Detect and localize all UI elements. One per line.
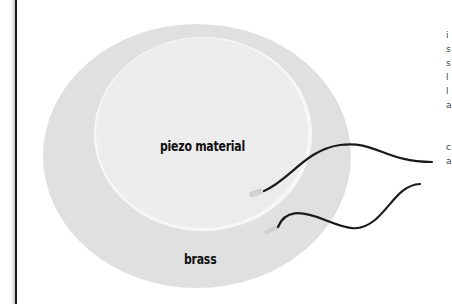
cropped-text-fragment: s xyxy=(446,56,452,70)
cropped-text-fragment: l xyxy=(446,70,452,84)
cropped-text-fragment: a xyxy=(446,98,452,112)
piezo-material-disc xyxy=(96,38,308,228)
cropped-text-fragment xyxy=(446,126,452,140)
piezo-material-label: piezo material xyxy=(160,138,245,154)
cropped-text-fragment: a xyxy=(446,154,452,168)
cropped-text-fragment xyxy=(446,14,452,28)
cropped-text-fragment: l xyxy=(446,84,452,98)
cropped-text-fragment: s xyxy=(446,42,452,56)
cropped-right-text: i s s l l a c a xyxy=(446,14,452,168)
cropped-text-fragment: i xyxy=(446,28,452,42)
cropped-text-fragment xyxy=(446,112,452,126)
cropped-text-fragment: c xyxy=(446,140,452,154)
brass-label: brass xyxy=(184,251,216,267)
